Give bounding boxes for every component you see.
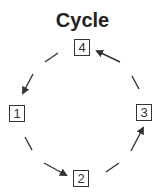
edge-3-4-segment (132, 76, 139, 89)
edge-4-1-segment (45, 53, 58, 62)
node-3: 3 (136, 104, 152, 121)
edge-4-1-arrow (23, 74, 33, 93)
edge-2-3-arrow (131, 128, 143, 151)
node-4: 4 (74, 39, 90, 56)
node-2: 2 (73, 170, 89, 187)
edge-2-3-segment (106, 163, 119, 172)
edge-1-2-arrow (44, 163, 66, 175)
edge-1-2-segment (25, 137, 32, 150)
node-1: 1 (9, 105, 25, 122)
cycle-arrows (0, 0, 165, 196)
edge-3-4-arrow (97, 51, 120, 62)
